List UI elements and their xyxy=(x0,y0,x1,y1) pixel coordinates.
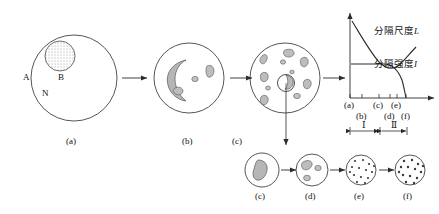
xtick-label-c: (c) xyxy=(373,101,383,110)
stage-c-blob-10 xyxy=(290,70,294,74)
detail-d-blob-2 xyxy=(315,165,321,170)
stage-b-small-blob-3 xyxy=(206,65,214,77)
legend-separation-scale-symbol: L xyxy=(414,26,419,36)
stage-b-crescent-blob xyxy=(167,60,186,101)
detail-row-group xyxy=(245,153,425,187)
stage-c-blob-4 xyxy=(280,60,285,64)
legend-separation-scale-text: 分隔尺度 xyxy=(374,25,414,36)
legend-separation-intensity-text: 分隔强度 xyxy=(374,58,414,69)
xtick-label-a: (a) xyxy=(344,101,354,110)
caption-detail-f: (f) xyxy=(403,192,412,201)
detail-d-circle xyxy=(296,154,328,186)
detail-c-blob xyxy=(253,160,267,180)
xtick-label-e: (e) xyxy=(391,101,401,110)
stage-c-blob-8 xyxy=(303,79,311,88)
stage-c-blob-1 xyxy=(260,55,267,64)
stage-c-blob-6 xyxy=(266,86,271,90)
stage-c-blob-7 xyxy=(260,95,268,104)
stage-b-outer-circle xyxy=(154,43,224,113)
stage-c-blob-5 xyxy=(260,72,268,81)
caption-stage-c: (c) xyxy=(232,137,242,146)
caption-detail-d: (d) xyxy=(305,192,316,201)
interval-I-label: Ⅰ xyxy=(362,121,366,130)
stage-c-blob-2 xyxy=(284,49,295,57)
stage-b-group xyxy=(154,43,224,113)
caption-stage-b: (b) xyxy=(182,137,193,146)
detail-d-blob-1 xyxy=(302,161,313,170)
chart-curve-separation-intensity xyxy=(351,64,406,98)
stage-b-small-blob-2 xyxy=(173,87,183,95)
detail-e-circle xyxy=(346,155,376,185)
legend-separation-intensity-symbol: I xyxy=(414,59,417,69)
stage-a-outer-circle xyxy=(31,35,117,121)
interval-II-label: Ⅱ xyxy=(391,121,397,130)
stage-c-blob-3 xyxy=(300,57,308,66)
phase-b-label: B xyxy=(58,73,64,82)
stage-a-phase-a-region xyxy=(45,41,75,71)
caption-stage-a: (a) xyxy=(66,137,76,146)
detail-f-dots xyxy=(398,159,424,184)
xtick-label-f: (f) xyxy=(401,112,410,121)
legend-separation-intensity: 分隔强度I xyxy=(374,59,417,69)
detail-d-blob-3 xyxy=(304,175,311,181)
caption-detail-e: (e) xyxy=(354,192,364,201)
detail-e-dots xyxy=(349,159,375,184)
phase-n-label: N xyxy=(42,89,49,98)
stage-c-blob-9 xyxy=(294,93,301,98)
stage-a-group xyxy=(31,35,117,121)
stage-b-small-blob-1 xyxy=(192,76,198,81)
stage-c-group xyxy=(250,43,320,113)
legend-separation-scale: 分隔尺度L xyxy=(374,26,419,36)
detail-f-circle xyxy=(395,155,425,185)
figure-canvas: A B N (a) (b) (c) 分隔尺度L 分隔强度I (a) (c) (e… xyxy=(0,0,439,214)
phase-a-label: A xyxy=(23,73,30,82)
caption-detail-c: (c) xyxy=(255,192,265,201)
